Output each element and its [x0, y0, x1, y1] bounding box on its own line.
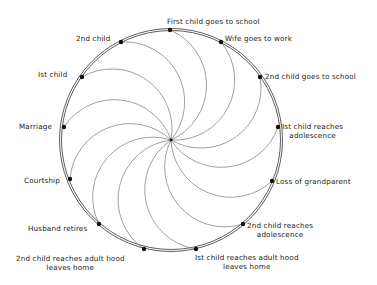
dot-1st-child-reaches-adulthood [194, 247, 198, 251]
label-2nd-child: 2nd child [76, 34, 110, 43]
label-text: Husband retires [28, 224, 87, 233]
label-text: Ist child reaches [282, 122, 343, 131]
label-marriage: Marriage [19, 122, 52, 131]
arc-2nd-child [121, 42, 185, 140]
label-1st-child-reaches-adulthood: Ist child reaches adult hood leaves home [195, 253, 299, 271]
label-husband-retires: Husband retires [28, 224, 87, 233]
arc-marriage [64, 100, 171, 140]
label-wife-goes-to-work: Wife goes to work [225, 34, 292, 43]
arc-1st-child [82, 69, 172, 140]
label-text: Ist child reaches adult hood [195, 253, 299, 262]
label-first-child-goes-to-school: First child goes to school [167, 17, 260, 26]
dot-first-child-goes-to-school [168, 28, 172, 32]
label-text: Marriage [19, 122, 52, 131]
dot-wife-goes-to-work [219, 40, 223, 44]
label-2nd-child-reaches-adulthood: 2nd child reaches adult hood leaves home [16, 254, 125, 272]
label-text: Courtship [24, 176, 60, 185]
dot-2nd-child-goes-to-school [258, 75, 262, 79]
label-1st-child: Ist child [38, 70, 67, 79]
label-text-2: adolescence [247, 230, 313, 239]
center-point [170, 139, 173, 142]
dot-husband-retires [97, 222, 101, 226]
dot-2nd-child-reaches-adulthood [142, 247, 146, 251]
label-text: Wife goes to work [225, 34, 292, 43]
dot-1st-child-reaches-adolescence [276, 125, 280, 129]
arc-wife-goes-to-work [171, 42, 235, 140]
label-2nd-child-goes-to-school: 2nd child goes to school [265, 72, 356, 81]
label-loss-of-grandparent: Loss of grandparent [276, 177, 351, 186]
dot-marriage [62, 125, 66, 129]
label-text-2: leaves home [195, 262, 299, 271]
dot-1st-child [80, 75, 84, 79]
label-courtship: Courtship [24, 176, 60, 185]
dot-courtship [68, 177, 72, 181]
arc-1st-child-reaches-adulthood [145, 140, 196, 249]
arc-2nd-child-goes-to-school [171, 77, 261, 148]
label-text: Ist child [38, 70, 67, 79]
dot-2nd-child-reaches-adolescence [241, 222, 245, 226]
arc-loss-of-grandparent [171, 140, 272, 197]
arc-courtship [70, 124, 171, 179]
label-text: 2nd child [76, 34, 110, 43]
label-1st-child-reaches-adolescence: Ist child reaches adolescence [282, 122, 343, 140]
label-text: 2nd child goes to school [265, 72, 356, 81]
arc-1st-child-reaches-adolescence [171, 127, 278, 167]
dot-loss-of-grandparent [270, 179, 274, 183]
arc-2nd-child-reaches-adolescence [165, 140, 243, 227]
arc-first-child-goes-to-school [170, 30, 207, 140]
label-text: 2nd child reaches adult hood [16, 254, 125, 263]
label-text: First child goes to school [167, 17, 260, 26]
label-text: 2nd child reaches [247, 221, 313, 230]
dot-2nd-child [119, 40, 123, 44]
label-text: Loss of grandparent [276, 177, 351, 186]
label-2nd-child-reaches-adolescence: 2nd child reaches adolescence [247, 221, 313, 239]
label-text-2: adolescence [282, 131, 343, 140]
family-life-cycle-diagram [0, 0, 377, 285]
label-text-2: leaves home [16, 263, 125, 272]
